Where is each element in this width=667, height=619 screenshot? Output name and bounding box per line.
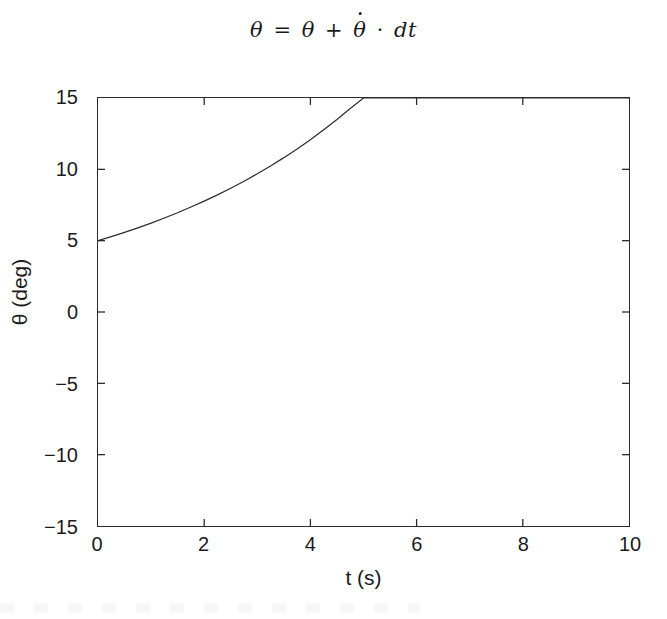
data-curve-theta (98, 98, 629, 241)
title-differential-dt: dt (394, 18, 417, 42)
title-theta-dot-symbol: θ (353, 18, 366, 42)
title-theta-dot-base: θ (353, 18, 366, 42)
plot-area (97, 97, 630, 527)
x-tick-label: 8 (518, 533, 529, 556)
title-equals-sign: = (270, 18, 294, 42)
x-tick-label: 4 (305, 533, 316, 556)
scan-bleed-artifact (0, 603, 420, 613)
x-tick-label: 10 (619, 533, 641, 556)
y-tick-label: −5 (55, 372, 88, 395)
title-plus-sign: + (322, 18, 346, 42)
x-axis-label: t (s) (97, 566, 630, 590)
title-cdot-operator: · (374, 18, 387, 42)
y-tick-label: 15 (56, 86, 88, 109)
x-tick-label: 0 (91, 533, 102, 556)
title-theta-lhs: θ (250, 18, 263, 42)
axis-tick-marks (98, 98, 629, 526)
x-tick-label: 2 (198, 533, 209, 556)
y-tick-label: 10 (56, 157, 88, 180)
theta-dot-accent-icon (359, 12, 362, 15)
y-axis-label: θ (deg) (8, 232, 32, 352)
x-tick-label: 6 (411, 533, 422, 556)
figure-canvas: θ = θ + θ · dt 151050−5−10−15 0246810 t … (0, 0, 667, 619)
title-theta-rhs: θ (302, 18, 315, 42)
chart-title: θ = θ + θ · dt (0, 18, 667, 42)
y-tick-label: −15 (44, 516, 88, 539)
y-tick-label: 0 (67, 301, 88, 324)
plot-svg (98, 98, 629, 526)
x-axis-tick-labels: 0246810 (97, 533, 630, 563)
y-tick-label: 5 (67, 229, 88, 252)
data-series-group (98, 98, 629, 241)
y-tick-label: −10 (44, 444, 88, 467)
